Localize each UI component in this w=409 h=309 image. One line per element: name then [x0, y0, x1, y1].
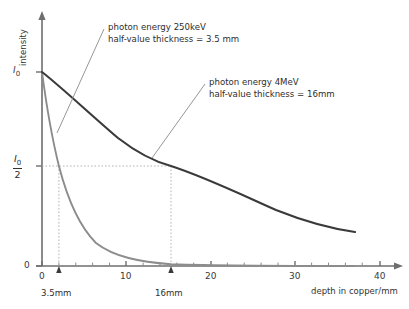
x-axis-title: depth in copper/mm	[311, 286, 398, 297]
chart-container: intensity I0 I0 2 0 0 10 20 30 40 depth …	[0, 0, 409, 309]
annotation-4mev-line1: photon energy 4MeV	[209, 77, 299, 88]
y-axis-arrow	[38, 11, 45, 20]
chart-svg	[0, 0, 409, 309]
fraction-numerator: I0	[13, 153, 22, 168]
x-tick-label-30: 30	[289, 271, 300, 282]
leader-line-4mev	[152, 84, 205, 158]
x-tick-label-0: 0	[39, 271, 45, 282]
x-tick-label-40: 40	[374, 271, 385, 282]
marker-arrows	[56, 266, 174, 273]
fraction-numerator-subscript: 0	[17, 159, 21, 167]
annotation-250kev-line2: half-value thickness = 3.5 mm	[108, 34, 239, 45]
curve-250kev	[42, 72, 354, 266]
x-axis-arrow	[394, 262, 403, 269]
annotation-4mev-line2: half-value thickness = 16mm	[209, 89, 335, 100]
x-tick-label-20: 20	[205, 271, 216, 282]
y-ticks	[36, 72, 42, 266]
marker-label-16mm: 16mm	[155, 288, 183, 299]
y-axis-title: intensity	[18, 29, 28, 66]
fraction-i0-over-2: I0 2	[13, 153, 22, 181]
y-tick-label-i0: I0	[13, 65, 20, 79]
y-tick-label-i0-half: I0 2	[13, 153, 22, 181]
y-tick-i0-subscript: 0	[16, 70, 20, 78]
x-tick-label-10: 10	[120, 271, 131, 282]
marker-label-3-5mm: 3.5mm	[41, 288, 71, 299]
leader-line-250kev	[57, 29, 104, 133]
y-tick-label-zero: 0	[24, 260, 30, 271]
annotation-250kev-line1: photon energy 250keV	[108, 22, 206, 33]
fraction-denominator: 2	[13, 168, 22, 181]
